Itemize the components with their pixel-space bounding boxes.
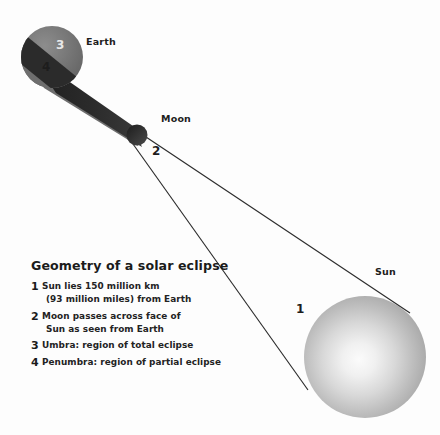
solar-eclipse-diagram: Earth Moon Sun 3 4 2 1 Geometry of a sol… bbox=[0, 0, 440, 435]
legend-item-number: 2 bbox=[31, 310, 42, 323]
sun-body bbox=[304, 296, 426, 418]
marker-umbra-3: 3 bbox=[56, 38, 65, 52]
legend-item: 2 Moon passes across face of Sun as seen… bbox=[31, 310, 246, 336]
legend-title: Geometry of a solar eclipse bbox=[31, 258, 246, 273]
legend-item-line2: Sun as seen from Earth bbox=[42, 323, 181, 336]
earth-label: Earth bbox=[86, 36, 116, 47]
legend-item-line1: Moon passes across face of bbox=[42, 311, 181, 321]
legend-item-text: Penumbra: region of partial eclipse bbox=[42, 356, 221, 369]
legend-item-line1: Umbra: region of total eclipse bbox=[42, 340, 193, 350]
legend-item-text: Umbra: region of total eclipse bbox=[42, 339, 193, 352]
legend-item-number: 1 bbox=[31, 280, 42, 293]
legend-item-text: Moon passes across face of Sun as seen f… bbox=[42, 310, 181, 336]
legend-item: 1 Sun lies 150 million km (93 million mi… bbox=[31, 280, 246, 306]
legend-item: 3 Umbra: region of total eclipse bbox=[31, 339, 246, 352]
legend-item-line1: Penumbra: region of partial eclipse bbox=[42, 357, 221, 367]
legend-item-line1: Sun lies 150 million km bbox=[42, 281, 159, 291]
legend-item: 4 Penumbra: region of partial eclipse bbox=[31, 356, 246, 369]
legend: Geometry of a solar eclipse 1 Sun lies 1… bbox=[31, 258, 246, 372]
legend-item-number: 4 bbox=[31, 356, 42, 369]
marker-sun-1: 1 bbox=[296, 302, 305, 316]
marker-penumbra-4: 4 bbox=[42, 60, 51, 74]
marker-moon-2: 2 bbox=[152, 144, 161, 158]
legend-item-line2: (93 million miles) from Earth bbox=[42, 293, 191, 306]
sun-label: Sun bbox=[375, 266, 396, 277]
moon-label: Moon bbox=[161, 113, 191, 124]
legend-item-number: 3 bbox=[31, 339, 42, 352]
moon-body bbox=[127, 125, 148, 146]
legend-item-text: Sun lies 150 million km (93 million mile… bbox=[42, 280, 191, 306]
